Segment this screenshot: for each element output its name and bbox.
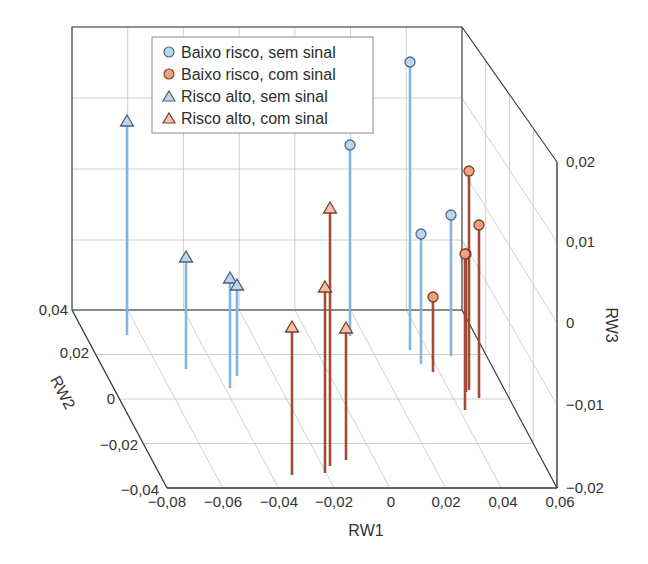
z-tick: 0,01	[566, 233, 595, 250]
z-tick: −0,01	[566, 396, 604, 413]
x-tick: 0,04	[488, 493, 517, 510]
y-tick: −0,04	[121, 481, 159, 498]
z-tick: −0,02	[566, 479, 604, 496]
z-tick: 0	[566, 314, 574, 331]
legend-item: Baixo risco, sem sinal	[164, 44, 336, 61]
y-axis-ticks: 0,04 0,02 0 −0,02 −0,04	[39, 301, 159, 498]
legend-item: Risco alto, sem sinal	[163, 88, 328, 105]
legend-label: Risco alto, com sinal	[181, 110, 328, 127]
y-tick: 0,02	[60, 344, 89, 361]
circle-marker-icon	[474, 220, 484, 230]
circle-marker-icon	[416, 229, 426, 239]
x-tick: 0,02	[431, 493, 460, 510]
legend-label: Baixo risco, com sinal	[181, 66, 336, 83]
x-tick: −0,06	[204, 493, 242, 510]
3d-stem-chart: −0,08 −0,06 −0,04 −0,02 0 0,02 0,04 0,06…	[0, 0, 648, 564]
circle-marker-icon	[405, 57, 415, 67]
x-axis-label: RW1	[348, 522, 383, 539]
y-tick: 0	[107, 390, 115, 407]
circle-marker-icon	[464, 166, 474, 176]
legend-label: Risco alto, sem sinal	[181, 88, 328, 105]
y-tick: 0,04	[39, 301, 68, 318]
triangle-marker-icon	[286, 321, 299, 332]
x-tick: −0,02	[315, 493, 353, 510]
z-axis-label: RW3	[603, 307, 620, 342]
triangle-marker-icon	[180, 251, 193, 262]
circle-marker-icon	[345, 140, 355, 150]
triangle-marker-icon	[224, 272, 237, 283]
triangle-marker-icon	[324, 202, 337, 213]
legend-label: Baixo risco, sem sinal	[181, 44, 336, 61]
y-tick: −0,02	[100, 436, 138, 453]
circle-marker-icon	[164, 69, 174, 79]
z-axis-ticks: 0,02 0,01 0 −0,01 −0,02	[566, 153, 604, 496]
circle-marker-icon	[446, 210, 456, 220]
triangle-marker-icon	[121, 115, 134, 126]
z-tick: 0,02	[566, 153, 595, 170]
y-axis-label: RW2	[47, 373, 79, 412]
x-axis-ticks: −0,08 −0,06 −0,04 −0,02 0 0,02 0,04 0,06	[148, 493, 575, 510]
legend-item: Baixo risco, com sinal	[164, 66, 336, 83]
legend: Baixo risco, sem sinal Baixo risco, com …	[152, 37, 373, 133]
legend-item: Risco alto, com sinal	[163, 110, 328, 127]
x-tick: −0,04	[260, 493, 298, 510]
circle-marker-icon	[460, 249, 470, 259]
circle-marker-icon	[164, 47, 174, 57]
x-tick: 0	[387, 493, 395, 510]
circle-marker-icon	[428, 292, 438, 302]
